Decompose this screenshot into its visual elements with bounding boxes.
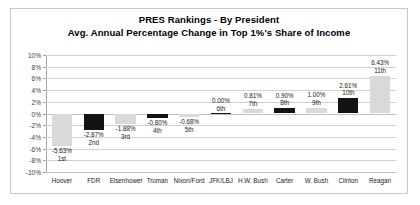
bars-group: -5.63%1st-2.87%2nd-1.88%3rd-0.80%4th-0.6… [46,55,396,172]
bar-value-text: 2.61% [339,82,357,89]
bar-value-text: -1.88% [116,125,136,132]
bar-rank-text: 10th [328,89,369,97]
y-axis-label: 4% [32,87,41,94]
x-axis-category-nixon-ford: Nixon/Ford [173,177,205,184]
bar-value-text: 1.00% [308,91,326,98]
bar[interactable] [370,76,390,114]
bar-value-text: 0.90% [276,92,294,99]
bar-rank-text: 5th [169,126,210,134]
bar[interactable] [243,109,263,114]
bar-value-label: 2.61%10th [328,82,369,97]
bar-slot: 0.81%7th [237,55,269,172]
y-axis-label: -6% [29,145,41,152]
bar-slot: -2.87%2nd [78,55,110,172]
chart-title-block: PRES Rankings - By President Avg. Annual… [11,14,407,39]
x-axis-category-fdr: FDR [78,177,110,184]
plot-area: 10%8%6%4%2%0%-2%-4%-6%-8%-10% -5.63%1st-… [46,55,396,172]
bar-value-label: 6.43%11th [360,59,401,74]
y-axis-label: 0% [32,110,41,117]
bar-slot: -0.68%5th [173,55,205,172]
bar-value-text: -2.87% [84,131,104,138]
bar[interactable] [306,108,326,114]
bar-value-label: -5.63%1st [42,147,83,162]
bar-value-text: 0.00% [212,97,230,104]
x-axis-category-clinton: Clinton [332,177,364,184]
chart-container: PRES Rankings - By President Avg. Annual… [10,8,408,194]
bar[interactable] [211,113,231,115]
bar-rank-text: 1st [42,155,83,163]
bar[interactable] [147,114,167,119]
bar-value-text: -0.68% [179,118,199,125]
bar[interactable] [84,114,104,131]
bar[interactable] [115,114,135,125]
bar-slot: -0.80%4th [141,55,173,172]
x-axis-category-carter: Carter [269,177,301,184]
x-axis-category-truman: Truman [141,177,173,184]
bar-slot: 0.90%8th [269,55,301,172]
bar-value-text: 6.43% [371,59,389,66]
x-axis-category-reagan: Reagan [364,177,396,184]
bar-value-text: -5.63% [52,147,72,154]
x-axis-category-eisenhower: Eisenhower [110,177,142,184]
y-axis-label: 10% [28,52,41,59]
bar[interactable] [179,114,199,118]
bar-slot: 1.00%9th [301,55,333,172]
y-axis-label: 6% [32,75,41,82]
x-axis-separator-line [46,172,396,173]
bar-slot: -1.88%3rd [110,55,142,172]
x-axis-category-hoover: Hoover [46,177,78,184]
bar-rank-text: 11th [360,67,401,75]
chart-title: PRES Rankings - By President [11,14,407,27]
bar[interactable] [338,98,358,113]
y-axis-label: -8% [29,157,41,164]
bar-slot: 0.00%6th [205,55,237,172]
y-axis-label: 2% [32,98,41,105]
bar-value-text: -0.80% [147,119,167,126]
bar-value-text: 0.81% [244,92,262,99]
y-axis-label: 8% [32,63,41,70]
y-axis-label: -2% [29,122,41,129]
x-axis-category-h-w-bush: H.W. Bush [237,177,269,184]
bar-slot: 6.43%11th [364,55,396,172]
bar[interactable] [52,114,72,147]
bar[interactable] [274,108,294,113]
x-axis-category-jfk-lbj: JFK/LBJ [205,177,237,184]
x-axis-category-labels: HooverFDREisenhowerTrumanNixon/FordJFK/L… [46,177,396,191]
y-axis-label: -4% [29,133,41,140]
y-axis-label: -10% [26,169,41,176]
bar-rank-text: 9th [296,99,337,107]
chart-subtitle: Avg. Annual Percentage Change in Top 1%'… [11,27,407,40]
x-axis-category-w-bush: W. Bush [301,177,333,184]
bar-value-label: -0.68%5th [169,118,210,133]
bar-slot: -5.63%1st [46,55,78,172]
